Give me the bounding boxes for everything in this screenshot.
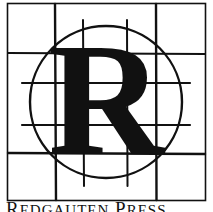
- grid-circle-emblem-icon: R: [0, 0, 213, 212]
- caption-initial-1: R: [6, 198, 20, 212]
- caption-initial-2: P: [115, 198, 127, 212]
- caption-word-2: RESS: [127, 202, 167, 212]
- caption-text: REDGAUTEN PRESS: [6, 199, 213, 212]
- logo-letter: R: [48, 11, 165, 189]
- logo: R: [0, 0, 213, 212]
- caption-word-1: EDGAUTEN: [20, 202, 110, 212]
